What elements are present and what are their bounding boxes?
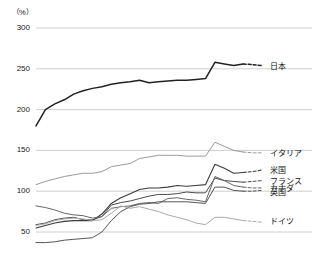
series-label-ドイツ: ドイツ <box>270 215 294 226</box>
series-line-イタリア <box>36 142 243 184</box>
y-tick-label-250: 250 <box>6 64 30 73</box>
y-tick-label-300: 300 <box>6 23 30 32</box>
series-label-米国: 米国 <box>270 164 286 175</box>
series-line-ドイツ <box>36 206 243 226</box>
series-label-英国: 英国 <box>270 186 286 197</box>
series-line-イタリア <box>243 152 262 153</box>
y-tick-label-150: 150 <box>6 145 30 154</box>
series-line-フランス <box>243 181 262 183</box>
series-line-カナダ <box>36 177 243 219</box>
series-line-日本 <box>243 64 262 66</box>
series-line-英国 <box>36 187 243 242</box>
y-tick-label-50: 50 <box>6 227 30 236</box>
series-label-イタリア: イタリア <box>270 147 302 158</box>
line-chart: （%） 50100150200250300 日本イタリア米国フランスカナダ英国ド… <box>0 0 318 262</box>
y-tick-label-100: 100 <box>6 186 30 195</box>
series-line-ドイツ <box>243 221 262 223</box>
series-line-日本 <box>36 62 243 126</box>
series-line-カナダ <box>243 187 262 188</box>
series-label-日本: 日本 <box>270 60 286 71</box>
series-line-米国 <box>243 170 262 172</box>
y-tick-label-200: 200 <box>6 105 30 114</box>
